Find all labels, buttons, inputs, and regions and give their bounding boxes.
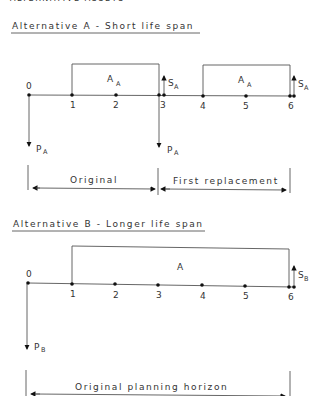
alt-a-purchase-label-2: P A xyxy=(167,145,179,157)
period-label-0: 0 xyxy=(26,269,32,279)
alt-a-title: Alternative A - Short life span xyxy=(12,21,194,31)
period-label-3: 3 xyxy=(160,100,166,110)
period-dot xyxy=(200,283,204,287)
svg-text:P: P xyxy=(34,342,40,352)
period-label-6: 6 xyxy=(288,292,294,302)
period-label-2: 2 xyxy=(113,290,119,300)
period-dot xyxy=(114,93,118,97)
svg-text:A: A xyxy=(116,80,121,88)
period-label-5: 5 xyxy=(243,291,249,301)
alt-a-salvage-label-2: S A xyxy=(298,79,309,92)
svg-text:A: A xyxy=(247,81,252,89)
period-dot xyxy=(201,94,205,98)
alt-b-salvage-label: S B xyxy=(298,270,308,283)
period-dot xyxy=(156,283,160,287)
period-label-3: 3 xyxy=(156,290,162,300)
alt-b-span-label: Original planning horizon xyxy=(75,382,228,392)
alt-b-annuity-label: A xyxy=(177,262,184,272)
period-dot xyxy=(70,93,74,97)
alt-a-span2-arrow-right xyxy=(165,189,286,190)
alt-a-span1-arrow-right xyxy=(36,188,155,189)
period-dot xyxy=(288,94,292,98)
period-label-0: 0 xyxy=(26,81,32,91)
svg-text:A: A xyxy=(107,74,114,84)
svg-text:P: P xyxy=(167,145,173,155)
cutoff-heading: ALTERNATIVE ASSETS xyxy=(10,0,125,3)
alt-a-annuity-label-1: A A xyxy=(107,74,121,88)
svg-text:A: A xyxy=(174,83,179,91)
svg-text:A: A xyxy=(238,75,245,85)
period-dot xyxy=(243,284,247,288)
svg-text:B: B xyxy=(41,346,45,354)
alt-b-purchase-label: P B xyxy=(34,342,45,354)
svg-text:A: A xyxy=(43,148,48,156)
svg-text:P: P xyxy=(36,144,42,154)
svg-text:B: B xyxy=(304,275,308,283)
period-label-5: 5 xyxy=(243,101,249,111)
period-label-2: 2 xyxy=(113,100,119,110)
period-label-4: 4 xyxy=(200,101,206,111)
period-dot xyxy=(244,94,248,98)
period-dot xyxy=(113,282,117,286)
period-dot xyxy=(292,285,296,289)
cash-flow-diagram: ALTERNATIVE ASSETS Alternative A - Short… xyxy=(0,0,317,396)
alt-a-timeline xyxy=(29,95,294,96)
period-dot xyxy=(287,285,291,289)
period-label-6: 6 xyxy=(288,101,294,111)
period-label-1: 1 xyxy=(70,289,76,299)
svg-text:A: A xyxy=(174,149,179,157)
svg-text:A: A xyxy=(304,84,309,92)
alt-a-salvage-label-1: S A xyxy=(168,78,179,91)
alt-a-annuity-label-2: A A xyxy=(238,75,252,89)
period-dot xyxy=(70,282,74,286)
alt-b-timeline xyxy=(28,283,294,287)
alt-a-span2-label: First replacement xyxy=(173,176,279,186)
period-label-1: 1 xyxy=(70,100,76,110)
alt-a-span1-label: Original xyxy=(70,175,118,185)
alt-b-title: Alternative B - Longer life span xyxy=(13,219,204,229)
alt-a-purchase-label-1: P A xyxy=(36,144,48,156)
period-label-4: 4 xyxy=(200,291,206,301)
